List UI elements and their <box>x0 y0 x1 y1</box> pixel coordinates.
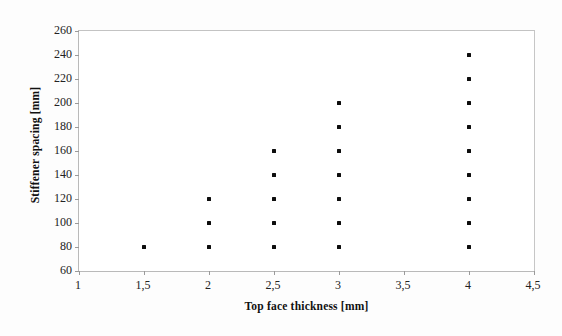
y-tick-label: 200 <box>34 96 72 108</box>
x-tick-label: 2,5 <box>266 278 281 292</box>
x-axis-tick-labels: 11,522,533,544,5 <box>78 278 535 294</box>
y-tick-label: 220 <box>34 72 72 84</box>
x-tick-label: 4,5 <box>526 278 541 292</box>
data-point <box>142 245 146 249</box>
y-tick-label: 60 <box>34 264 72 276</box>
x-tick-mark <box>404 271 405 275</box>
data-point <box>272 197 276 201</box>
y-tick-mark <box>75 151 79 152</box>
x-tick-label: 3,5 <box>396 278 411 292</box>
scatter-chart-figure: Stiffener spacing [mm] 60801001201401601… <box>0 0 562 336</box>
data-point <box>467 125 471 129</box>
y-tick-mark <box>75 127 79 128</box>
data-point <box>467 101 471 105</box>
y-tick-label: 140 <box>34 168 72 180</box>
y-tick-mark <box>75 223 79 224</box>
data-point <box>467 221 471 225</box>
y-tick-label: 120 <box>34 192 72 204</box>
data-point <box>207 245 211 249</box>
data-point <box>337 173 341 177</box>
y-tick-mark <box>75 79 79 80</box>
x-tick-mark <box>469 271 470 275</box>
x-tick-mark <box>79 271 80 275</box>
data-point <box>467 197 471 201</box>
x-tick-label: 2 <box>205 278 211 292</box>
y-tick-label: 180 <box>34 120 72 132</box>
y-tick-mark <box>75 31 79 32</box>
data-point <box>467 245 471 249</box>
x-tick-mark <box>339 271 340 275</box>
y-tick-mark <box>75 247 79 248</box>
data-point <box>272 149 276 153</box>
data-point <box>337 101 341 105</box>
y-tick-label: 80 <box>34 240 72 252</box>
data-point <box>467 173 471 177</box>
x-tick-mark <box>209 271 210 275</box>
x-tick-label: 3 <box>335 278 341 292</box>
x-axis-title: Top face thickness [mm] <box>78 300 535 312</box>
x-tick-mark <box>144 271 145 275</box>
y-tick-mark <box>75 103 79 104</box>
data-point <box>207 197 211 201</box>
y-axis-tick-labels: 6080100120140160180200220240260 <box>32 0 72 336</box>
data-point <box>337 149 341 153</box>
x-tick-label: 1,5 <box>136 278 151 292</box>
data-point <box>272 221 276 225</box>
y-tick-label: 160 <box>34 144 72 156</box>
data-point <box>337 221 341 225</box>
y-tick-mark <box>75 199 79 200</box>
data-point <box>467 77 471 81</box>
y-tick-label: 100 <box>34 216 72 228</box>
x-tick-label: 1 <box>75 278 81 292</box>
data-point <box>337 125 341 129</box>
plot-area <box>78 30 535 272</box>
y-tick-mark <box>75 175 79 176</box>
data-point <box>272 173 276 177</box>
y-tick-label: 260 <box>34 24 72 36</box>
data-point <box>467 149 471 153</box>
y-tick-mark <box>75 55 79 56</box>
y-tick-label: 240 <box>34 48 72 60</box>
data-point <box>207 221 211 225</box>
x-tick-mark <box>534 271 535 275</box>
x-tick-label: 4 <box>465 278 471 292</box>
x-tick-mark <box>274 271 275 275</box>
data-point <box>272 245 276 249</box>
data-point <box>467 53 471 57</box>
data-point <box>337 245 341 249</box>
data-point <box>337 197 341 201</box>
